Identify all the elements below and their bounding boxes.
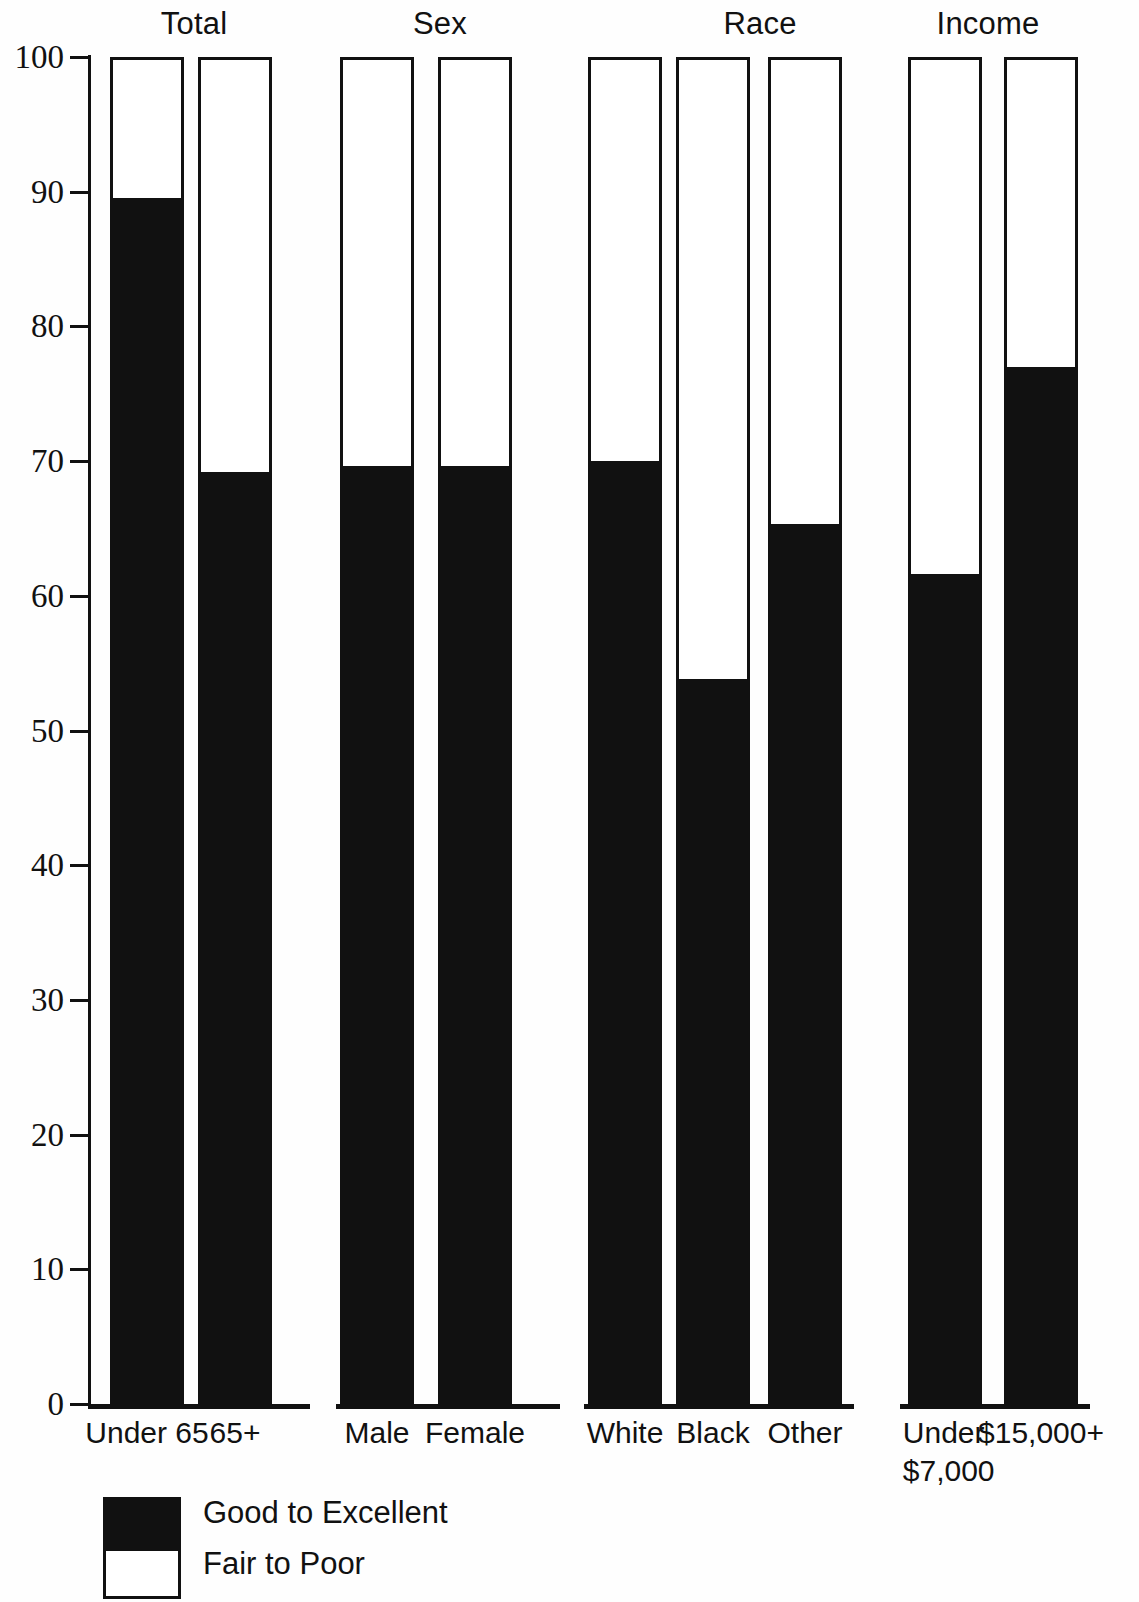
y-axis-tick <box>70 999 90 1002</box>
group-title-sex: Sex <box>413 6 467 42</box>
category-label-line1: 65+ <box>210 1416 261 1449</box>
bar-segment-good-to-excellent <box>343 466 411 1401</box>
y-axis-tick-label: 70 <box>31 443 64 480</box>
y-axis-tick-label: 20 <box>31 1116 64 1153</box>
category-label: White <box>587 1414 664 1452</box>
category-label-line1: Black <box>676 1416 749 1449</box>
category-label: $15,000+ <box>978 1414 1104 1452</box>
y-axis-tick-label: 90 <box>31 173 64 210</box>
bar-under-65 <box>110 57 184 1404</box>
baseline-race <box>584 1404 854 1409</box>
category-label-line1: Female <box>425 1416 525 1449</box>
y-axis-tick <box>70 325 90 328</box>
y-axis-tick-label: 100 <box>15 39 65 76</box>
y-axis-tick <box>70 1268 90 1271</box>
legend-swatch-hollow-icon <box>103 1548 181 1599</box>
y-axis-tick <box>70 730 90 733</box>
category-label-line1: Other <box>767 1416 842 1449</box>
bar-male <box>340 57 414 1404</box>
y-axis-tick-label: 30 <box>31 981 64 1018</box>
y-axis-tick-label: 50 <box>31 712 64 749</box>
group-title-race: Race <box>723 6 796 42</box>
legend-swatch-solid-icon <box>103 1497 181 1548</box>
bar-segment-good-to-excellent <box>679 679 747 1401</box>
category-label-line1: White <box>587 1416 664 1449</box>
baseline-income <box>900 1404 1090 1409</box>
y-axis-tick-label: 40 <box>31 847 64 884</box>
legend-label-fair-to-poor: Fair to Poor <box>203 1546 365 1582</box>
category-label-line2: $7,000 <box>903 1452 995 1490</box>
bar-15-000 <box>1004 57 1078 1404</box>
bar-segment-good-to-excellent <box>441 466 509 1401</box>
bar-segment-good-to-excellent <box>113 198 181 1401</box>
category-label-line1: Under <box>903 1416 985 1449</box>
y-axis-tick <box>70 1403 90 1406</box>
baseline-total <box>88 1404 310 1409</box>
bar-segment-good-to-excellent <box>1007 367 1075 1401</box>
bar-segment-good-to-excellent <box>911 574 979 1401</box>
legend-label-good-to-excellent: Good to Excellent <box>203 1495 448 1531</box>
bar-65 <box>198 57 272 1404</box>
y-axis-tick-label: 10 <box>31 1251 64 1288</box>
y-axis-tick-label: 60 <box>31 577 64 614</box>
bar-under <box>908 57 982 1404</box>
stacked-bar-chart: Total Sex Race Income 100908070605040302… <box>0 0 1139 1602</box>
bar-other <box>768 57 842 1404</box>
category-label: Other <box>767 1414 842 1452</box>
category-label-line1: $15,000+ <box>978 1416 1104 1449</box>
y-axis-tick <box>70 191 90 194</box>
y-axis-tick-label: 80 <box>31 308 64 345</box>
category-label: Under 65 <box>85 1414 208 1452</box>
baseline-sex <box>336 1404 560 1409</box>
y-axis-tick <box>70 460 90 463</box>
bar-black <box>676 57 750 1404</box>
bar-segment-good-to-excellent <box>201 472 269 1401</box>
bar-segment-good-to-excellent <box>591 461 659 1401</box>
bar-white <box>588 57 662 1404</box>
y-axis-tick <box>70 595 90 598</box>
y-axis-tick <box>70 864 90 867</box>
group-title-total: Total <box>161 6 227 42</box>
category-label: Male <box>344 1414 409 1452</box>
y-axis-tick <box>70 56 90 59</box>
group-title-income: Income <box>937 6 1040 42</box>
category-label-line1: Under 65 <box>85 1416 208 1449</box>
y-axis-tick-label: 0 <box>48 1386 65 1423</box>
bar-segment-good-to-excellent <box>771 524 839 1401</box>
category-label: Female <box>425 1414 525 1452</box>
bar-female <box>438 57 512 1404</box>
y-axis-tick <box>70 1134 90 1137</box>
category-label: 65+ <box>210 1414 261 1452</box>
category-label-line1: Male <box>344 1416 409 1449</box>
category-label: Black <box>676 1414 749 1452</box>
